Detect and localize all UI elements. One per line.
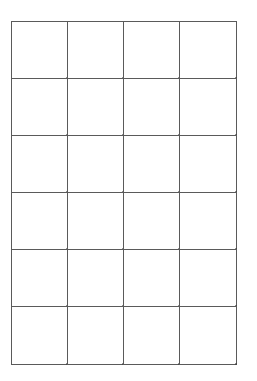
blank-grid	[11, 21, 236, 364]
grid-cell[interactable]	[11, 78, 68, 136]
grid-cell[interactable]	[179, 192, 236, 250]
grid-cell[interactable]	[67, 21, 124, 79]
grid-cell[interactable]	[67, 192, 124, 250]
grid-cell[interactable]	[123, 21, 180, 79]
grid-cell[interactable]	[179, 249, 236, 307]
grid-cell[interactable]	[11, 21, 68, 79]
grid-cell[interactable]	[67, 249, 124, 307]
grid-cell[interactable]	[67, 78, 124, 136]
grid-cell[interactable]	[179, 78, 236, 136]
page-canvas	[0, 0, 257, 381]
grid-cell[interactable]	[67, 306, 124, 364]
grid-cell[interactable]	[11, 249, 68, 307]
grid-cell[interactable]	[11, 192, 68, 250]
grid-cell[interactable]	[67, 135, 124, 193]
grid-cell[interactable]	[11, 306, 68, 364]
grid-cell[interactable]	[123, 78, 180, 136]
grid-cell[interactable]	[123, 135, 180, 193]
grid-cell[interactable]	[179, 21, 236, 79]
grid-cell[interactable]	[123, 306, 180, 364]
grid-cell[interactable]	[179, 306, 236, 364]
grid-cell[interactable]	[123, 249, 180, 307]
grid-cell[interactable]	[123, 192, 180, 250]
grid-cell[interactable]	[11, 135, 68, 193]
grid-cell[interactable]	[179, 135, 236, 193]
